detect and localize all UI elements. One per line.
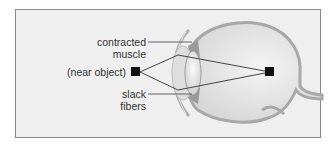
near-object-marker [131,67,140,76]
eyeball [186,23,322,123]
label-muscle: muscle [80,48,146,60]
label-fibers: fibers [80,100,146,112]
retinal-image-marker [265,67,274,76]
label-slack: slack [80,88,146,100]
label-contracted: contracted [80,36,146,48]
label-slack-fibers: slack fibers [80,88,146,112]
label-contracted-muscle: contracted muscle [80,36,146,60]
label-near-object: (near object) [40,66,126,78]
